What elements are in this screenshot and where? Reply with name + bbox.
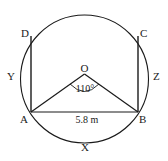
label-C: C bbox=[140, 27, 147, 39]
label-D: D bbox=[21, 27, 29, 39]
label-O: O bbox=[81, 62, 89, 74]
angle-label: 110° bbox=[76, 83, 95, 94]
label-A: A bbox=[20, 113, 28, 125]
label-X: X bbox=[81, 141, 89, 153]
label-B: B bbox=[139, 113, 146, 125]
label-Y: Y bbox=[7, 70, 15, 82]
length-label: 5.8 m bbox=[76, 114, 99, 125]
circle-diagram: O 110° D C Y Z A B 5.8 m X bbox=[0, 0, 168, 161]
label-Z: Z bbox=[153, 70, 160, 82]
